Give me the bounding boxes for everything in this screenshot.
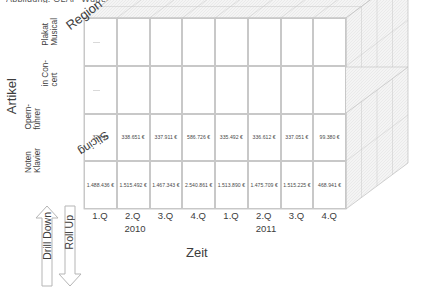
y-tick-line1: in Con-: [41, 60, 50, 86]
cube-cell: 1.488.436 €: [84, 161, 117, 209]
cube-cell: [182, 18, 215, 66]
cube-cell: 468.941 €: [313, 161, 346, 209]
cube-cell-value: 1.475.709 €: [249, 182, 280, 188]
cube-cell: [117, 66, 150, 114]
cube-cell: 99.380 €: [313, 114, 346, 162]
cube-cell: 1.475.709 €: [248, 161, 281, 209]
cube-cell: 586.726 €: [182, 114, 215, 162]
cube-cell: 335.492 €: [215, 114, 248, 162]
x-axis-tick-q1-2011: 1.Q: [215, 210, 247, 221]
cube-cell-value: 336.612 €: [249, 134, 280, 140]
cube-cell: [84, 66, 117, 114]
cube-cell: [248, 18, 281, 66]
cube-cell: [150, 18, 183, 66]
x-axis-tick-q2-2010: 2.Q: [117, 210, 149, 221]
cube-cell-value: 1.515.225 €: [282, 182, 313, 188]
cube-cell: [281, 18, 314, 66]
x-axis-tick-q3-2011: 3.Q: [281, 210, 313, 221]
cube-cell: [215, 18, 248, 66]
cube-cell: [248, 66, 281, 114]
cube-cell-value: 468.941 €: [314, 182, 345, 188]
cube-cell: [313, 66, 346, 114]
y-axis-tick-noten-klavier: Noten Klavier: [24, 148, 42, 173]
y-tick-line2: führer: [33, 104, 42, 129]
y-tick-line2: Klavier: [33, 148, 42, 173]
cube-cell: 1.513.890 €: [215, 161, 248, 209]
y-tick-line1: Noten: [24, 148, 33, 173]
olap-cube-diagram: Abbildung: OLAP-Würfel mit Kennzahlen: [0, 0, 431, 288]
drill-down-label: Drill Down: [41, 212, 53, 260]
cube-cell-value: 586.726 €: [183, 134, 214, 140]
cube-cell-placeholder-mark: [93, 90, 100, 91]
cube-cell: 337.051 €: [281, 114, 314, 162]
cube-cell: 338.651 €: [117, 114, 150, 162]
x-axis-tick-q4-2011: 4.Q: [313, 210, 345, 221]
y-tick-line1: Opern-: [24, 104, 33, 129]
cube-cell-value: 335.492 €: [216, 134, 247, 140]
cube-cell: [117, 18, 150, 66]
y-axis-title: Artikel: [4, 78, 19, 114]
y-axis-tick-in-concert: in Con- cert: [41, 60, 59, 86]
cube-cell-value: 1.513.890 €: [216, 182, 247, 188]
cube-cell: 1.515.225 €: [281, 161, 314, 209]
x-axis-year-2010: 2010: [100, 223, 170, 234]
y-axis-tick-plakat-musical: Plakat Musical: [41, 18, 59, 46]
cube-cell: [84, 18, 117, 66]
cube-cell-value: 2.540.861 €: [183, 182, 214, 188]
cube-cell: 2.540.861 €: [182, 161, 215, 209]
x-axis-tick-q1-2010: 1.Q: [84, 210, 116, 221]
x-axis-year-2011: 2011: [231, 223, 301, 234]
x-axis-tick-q3-2010: 3.Q: [150, 210, 182, 221]
cube-front-grid: 1.488.436 €1.515.492 €1.467.343 €2.540.8…: [84, 18, 346, 209]
x-axis-title: Zeit: [186, 245, 208, 260]
y-tick-line1: Plakat: [41, 18, 50, 46]
cube-cell: [313, 18, 346, 66]
y-axis-tick-opernfuehrer: Opern- führer: [24, 104, 42, 129]
roll-up-label: Roll Up: [63, 215, 75, 249]
cube-cell: 336.612 €: [248, 114, 281, 162]
x-axis-tick-q2-2011: 2.Q: [248, 210, 280, 221]
cube-cell: 337.911 €: [150, 114, 183, 162]
cube-cell: [182, 66, 215, 114]
cube-cell: [281, 66, 314, 114]
cube-cell: 1.467.343 €: [150, 161, 183, 209]
y-tick-line2: cert: [50, 60, 59, 86]
y-tick-line2: Musical: [50, 18, 59, 46]
cube-cell-value: 1.467.343 €: [151, 182, 182, 188]
cube-cell: [215, 66, 248, 114]
cube-cell-value: 338.651 €: [118, 134, 149, 140]
cube-cell-value: 337.051 €: [282, 134, 313, 140]
cube-cell-placeholder-mark: [93, 42, 100, 43]
cube-cell-value: 99.380 €: [314, 134, 345, 140]
cube-cell: [150, 66, 183, 114]
x-axis-tick-q4-2010: 4.Q: [182, 210, 214, 221]
cube-cell: 1.515.492 €: [117, 161, 150, 209]
cube-cell-value: 337.911 €: [151, 134, 182, 140]
cube-cell-value: 1.515.492 €: [118, 182, 149, 188]
cube-cell-value: 1.488.436 €: [85, 182, 116, 188]
